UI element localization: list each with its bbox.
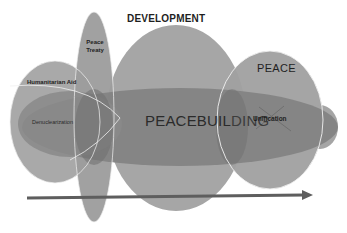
peace-treaty-line2: Treaty bbox=[86, 47, 104, 53]
peace-label: PEACE bbox=[257, 63, 296, 74]
development-label: DEVELOPMENT bbox=[127, 14, 205, 24]
denuclearization-label: Denuclearization bbox=[32, 120, 73, 126]
timeline-arrow-shaft bbox=[27, 195, 304, 198]
peace-treaty-label: Peace Treaty bbox=[83, 39, 107, 54]
peacebuilding-label-head: PEACEBUIL bbox=[145, 112, 231, 129]
peace-treaty-line1: Peace bbox=[86, 39, 103, 45]
humanitarian-aid-label: Humanitarian Aid bbox=[27, 79, 76, 85]
unification-label: Unification bbox=[253, 116, 287, 123]
peacebuilding-label: PEACEBUILDING bbox=[145, 113, 269, 128]
timeline-arrow-head bbox=[302, 190, 313, 200]
